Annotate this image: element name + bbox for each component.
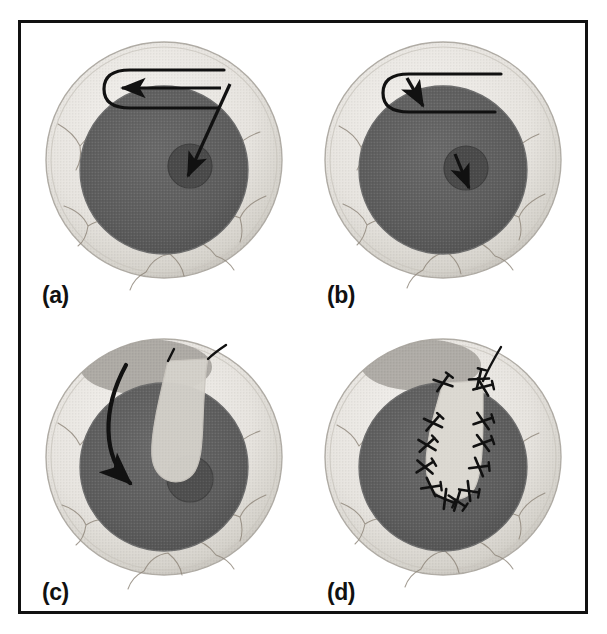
panel-label-d: (d) — [327, 579, 355, 606]
panel-d: (d) — [303, 317, 588, 614]
panel-a: (a) — [18, 20, 303, 317]
panel-label-a: (a) — [42, 282, 69, 309]
eye-diagram-a — [18, 20, 303, 317]
pupil-spot-a — [168, 144, 212, 188]
figure-root: (a) — [0, 0, 607, 634]
eye-diagram-b — [303, 20, 588, 317]
eye-diagram-c — [18, 317, 303, 614]
iris-a — [80, 86, 248, 254]
panel-label-b: (b) — [327, 282, 355, 309]
panel-b: (b) — [303, 20, 588, 317]
panel-c: (c) — [18, 317, 303, 614]
panel-label-c: (c) — [42, 579, 69, 606]
eye-diagram-d — [303, 317, 588, 614]
